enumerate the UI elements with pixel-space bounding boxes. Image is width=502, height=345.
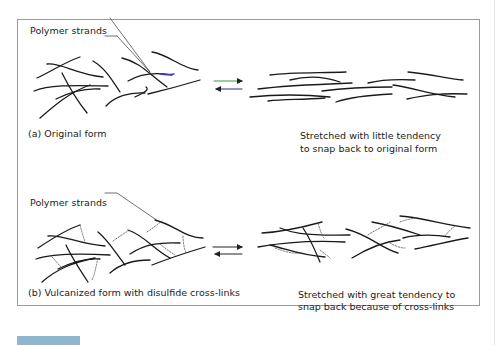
caption-stretched-great-line2: snap back because of cross-links bbox=[298, 300, 454, 313]
strands-original bbox=[34, 52, 200, 118]
polymer-strands-label-a: Polymer strands bbox=[30, 24, 107, 37]
caption-original-form: (a) Original form bbox=[28, 127, 107, 140]
caption-stretched-little-line2: to snap back to original form bbox=[300, 142, 437, 155]
strands-vulcanized bbox=[36, 220, 205, 282]
disulfide-crosslinks bbox=[50, 221, 186, 280]
strands-vulcanized-stretched bbox=[258, 216, 470, 262]
caption-vulcanized-form: (b) Vulcanized form with disulfide cross… bbox=[28, 286, 240, 299]
polymer-strands-label-b: Polymer strands bbox=[30, 196, 107, 209]
caption-stretched-little-line1: Stretched with little tendency bbox=[300, 129, 441, 142]
strands-stretched bbox=[250, 72, 467, 102]
